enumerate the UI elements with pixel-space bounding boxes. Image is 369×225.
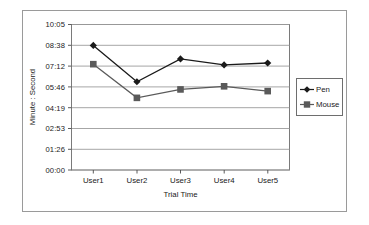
y-tick-label: 02:53 [45, 124, 65, 133]
y-tick-label: 10:05 [45, 20, 65, 29]
y-tick-label: 05:46 [45, 83, 65, 92]
chart-figure: 10:05 08:38 07:12 05:46 04:19 02:53 01:2… [0, 0, 369, 225]
y-tick-label: 07:12 [45, 62, 65, 71]
x-tick-label: User3 [170, 176, 191, 185]
line-chart: 10:05 08:38 07:12 05:46 04:19 02:53 01:2… [0, 0, 369, 225]
y-axis-title: Minute : Second [28, 69, 37, 125]
chart-legend: Pen Mouse [297, 79, 343, 116]
x-tick-label: User2 [127, 176, 148, 185]
square-marker-icon [264, 88, 271, 95]
square-marker-icon [304, 101, 310, 107]
x-axis-title: Trial Time [164, 190, 198, 199]
legend-box [297, 79, 343, 116]
x-tick-label: User1 [83, 176, 104, 185]
square-marker-icon [177, 86, 184, 93]
y-axis-ticks [68, 25, 72, 171]
plot-area-background [72, 25, 290, 171]
legend-label-mouse: Mouse [316, 100, 339, 109]
y-tick-label: 00:00 [45, 166, 65, 175]
x-tick-label: User5 [257, 176, 278, 185]
y-tick-label: 04:19 [45, 104, 65, 113]
y-tick-label: 01:26 [45, 145, 65, 154]
square-marker-icon [90, 61, 97, 68]
x-axis-ticks [93, 170, 267, 174]
square-marker-icon [134, 95, 141, 102]
legend-label-pen: Pen [316, 85, 330, 94]
square-marker-icon [221, 83, 228, 90]
y-tick-label: 08:38 [45, 41, 65, 50]
x-tick-label: User4 [214, 176, 235, 185]
